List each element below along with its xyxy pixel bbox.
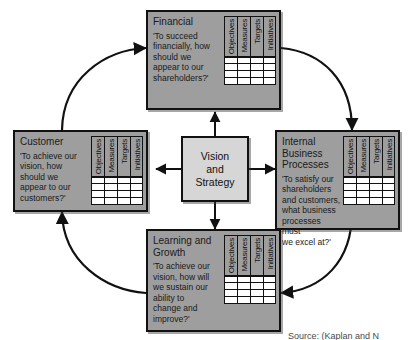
grid-cell[interactable]: [224, 64, 237, 71]
arrow-financial-internal: [281, 48, 352, 130]
balanced-scorecard-diagram: Financial 'To succeed financially, how s…: [0, 0, 410, 340]
scorecard-grid-learning[interactable]: Objectives Measures Targets Initiatives: [224, 235, 276, 327]
grid-cell[interactable]: [104, 184, 117, 191]
grid-cell[interactable]: [356, 177, 369, 184]
panel-learning-title: Learning and Growth: [153, 235, 222, 258]
grid-cell[interactable]: [91, 184, 104, 191]
grid-cell[interactable]: [250, 57, 263, 64]
scorecard-grid-internal[interactable]: Objectives Measures Targets Initiatives: [343, 136, 395, 225]
scorecard-grid-financial[interactable]: Objectives Measures Targets Initiatives: [224, 16, 276, 105]
table-row: [343, 177, 395, 184]
grid-cell[interactable]: [356, 184, 369, 191]
grid-body: [91, 177, 143, 205]
table-row: [343, 184, 395, 191]
grid-cell[interactable]: [104, 177, 117, 184]
grid-cell[interactable]: [250, 276, 263, 283]
grid-cell[interactable]: [343, 198, 356, 205]
panel-internal-title: Internal Business Processes: [282, 136, 341, 171]
grid-cell[interactable]: [369, 177, 382, 184]
grid-cell[interactable]: [237, 64, 250, 71]
table-row: [224, 64, 276, 71]
grid-cell[interactable]: [224, 71, 237, 78]
grid-cell[interactable]: [224, 57, 237, 64]
grid-cell[interactable]: [237, 297, 250, 304]
panel-financial-title: Financial: [153, 16, 222, 28]
grid-cell[interactable]: [237, 71, 250, 78]
table-row: [343, 198, 395, 205]
grid-cell[interactable]: [237, 78, 250, 85]
table-row: [91, 177, 143, 184]
grid-cell[interactable]: [237, 276, 250, 283]
grid-cell[interactable]: [250, 71, 263, 78]
grid-col-initiatives: Initiatives: [130, 136, 143, 177]
grid-cell[interactable]: [250, 290, 263, 297]
grid-col-measures: Measures: [237, 16, 250, 57]
grid-body: [224, 276, 276, 304]
grid-cell[interactable]: [356, 191, 369, 198]
grid-cell[interactable]: [250, 297, 263, 304]
grid-col-targets: Targets: [250, 16, 263, 57]
grid-cell[interactable]: [91, 198, 104, 205]
grid-cell[interactable]: [130, 177, 143, 184]
grid-cell[interactable]: [263, 78, 276, 85]
grid-cell[interactable]: [117, 177, 130, 184]
grid-cell[interactable]: [224, 78, 237, 85]
panel-financial[interactable]: Financial 'To succeed financially, how s…: [146, 10, 281, 110]
grid-col-measures: Measures: [356, 136, 369, 177]
grid-cell[interactable]: [224, 283, 237, 290]
grid-cell[interactable]: [263, 276, 276, 283]
grid-cell[interactable]: [104, 191, 117, 198]
grid-cell[interactable]: [224, 297, 237, 304]
grid-cell[interactable]: [369, 191, 382, 198]
grid-cell[interactable]: [237, 283, 250, 290]
panel-internal-business-processes[interactable]: Internal Business Processes 'To satisfy …: [275, 130, 400, 230]
grid-cell[interactable]: [224, 290, 237, 297]
scorecard-grid-customer[interactable]: Objectives Measures Targets Initiatives: [91, 136, 143, 207]
table-row: [224, 276, 276, 283]
grid-cell[interactable]: [117, 198, 130, 205]
grid-cell[interactable]: [250, 64, 263, 71]
center-vision-and-strategy-box[interactable]: Vision and Strategy: [181, 136, 249, 202]
grid-cell[interactable]: [263, 290, 276, 297]
grid-cell[interactable]: [369, 184, 382, 191]
grid-header-row: Objectives Measures Targets Initiatives: [224, 235, 276, 276]
grid-cell[interactable]: [91, 191, 104, 198]
grid-cell[interactable]: [130, 198, 143, 205]
grid-cell[interactable]: [130, 191, 143, 198]
grid-cell[interactable]: [369, 198, 382, 205]
grid-cell[interactable]: [263, 71, 276, 78]
panel-customer-text: Customer 'To achieve our vision, how sho…: [20, 136, 91, 207]
grid-cell[interactable]: [263, 64, 276, 71]
grid-cell[interactable]: [130, 184, 143, 191]
grid-header-row: Objectives Measures Targets Initiatives: [224, 16, 276, 57]
grid-cell[interactable]: [250, 283, 263, 290]
grid-cell[interactable]: [263, 297, 276, 304]
table-row: [91, 191, 143, 198]
table-row: [224, 283, 276, 290]
grid-cell[interactable]: [237, 290, 250, 297]
grid-cell[interactable]: [224, 276, 237, 283]
grid-cell[interactable]: [382, 184, 395, 191]
grid-cell[interactable]: [343, 177, 356, 184]
grid-col-targets: Targets: [369, 136, 382, 177]
grid-cell[interactable]: [117, 191, 130, 198]
grid-cell[interactable]: [250, 78, 263, 85]
grid-cell[interactable]: [237, 57, 250, 64]
panel-customer-title: Customer: [20, 136, 89, 148]
grid-cell[interactable]: [382, 177, 395, 184]
table-row: [91, 198, 143, 205]
grid-cell[interactable]: [343, 184, 356, 191]
grid-cell[interactable]: [382, 198, 395, 205]
grid-cell[interactable]: [382, 191, 395, 198]
grid-cell[interactable]: [263, 57, 276, 64]
grid-cell[interactable]: [117, 184, 130, 191]
grid-cell[interactable]: [91, 177, 104, 184]
grid-cell[interactable]: [356, 198, 369, 205]
grid-cell[interactable]: [263, 283, 276, 290]
table-row: [343, 191, 395, 198]
panel-learning-and-growth[interactable]: Learning and Growth 'To achieve our visi…: [146, 229, 281, 332]
grid-cell[interactable]: [104, 198, 117, 205]
panel-customer[interactable]: Customer 'To achieve our vision, how sho…: [13, 130, 148, 212]
grid-cell[interactable]: [343, 191, 356, 198]
panel-internal-question: 'To satisfy our shareholders and custome…: [282, 174, 341, 248]
